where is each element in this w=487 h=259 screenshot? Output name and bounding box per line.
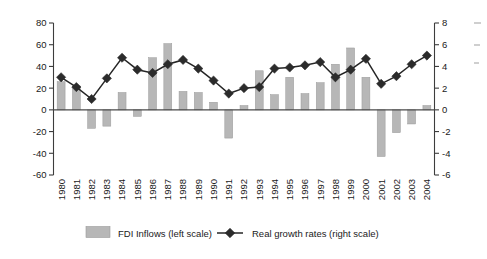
year-label: 1995 [284, 179, 295, 200]
year-label: 1992 [238, 179, 249, 200]
right-axis-tick-label: 8 [442, 17, 447, 28]
right-value-axis: 86420-2-4-6 [435, 17, 451, 180]
bar [408, 110, 416, 124]
bar [377, 110, 385, 157]
left-axis-tick-label: 40 [36, 61, 47, 72]
bar [194, 92, 202, 109]
year-label: 1998 [330, 179, 341, 200]
left-value-axis: 806040200-20-40-60 [33, 17, 54, 180]
left-axis-tick-label: 20 [36, 83, 47, 94]
bar [164, 44, 172, 110]
diamond-marker [57, 73, 66, 82]
year-label: 1994 [269, 179, 280, 200]
legend-label-growth: Real growth rates (right scale) [252, 228, 379, 239]
bar [362, 77, 370, 110]
year-label: 1991 [223, 179, 234, 200]
year-label: 2003 [406, 179, 417, 200]
right-axis-tick-label: -2 [442, 126, 450, 137]
bar [423, 106, 431, 110]
right-axis-tick-label: 4 [442, 61, 447, 72]
left-axis-tick-label: 80 [36, 17, 47, 28]
bar [240, 106, 248, 110]
year-label: 1987 [162, 179, 173, 200]
right-axis-tick-label: -4 [442, 148, 450, 159]
real-growth-rate-line [57, 51, 432, 104]
diamond-marker [377, 79, 386, 88]
scan-artifact-marks [474, 22, 481, 64]
year-label: 2004 [421, 179, 432, 200]
bar [331, 64, 339, 110]
fdi-inflow-bars [57, 44, 431, 157]
bar [179, 91, 187, 109]
year-label: 1996 [299, 179, 310, 200]
left-axis-tick-label: -20 [33, 126, 47, 137]
bar [88, 110, 96, 128]
left-axis-tick-label: 60 [36, 39, 47, 50]
right-axis-tick-label: -6 [442, 169, 450, 180]
diamond-marker [361, 54, 370, 63]
year-label: 1980 [56, 179, 67, 200]
left-axis-tick-label: -40 [33, 148, 47, 159]
legend-bar-swatch [86, 227, 110, 238]
bar [210, 102, 218, 110]
bar [392, 110, 400, 133]
diamond-marker [178, 55, 187, 64]
bar [271, 95, 279, 110]
bar [57, 82, 65, 110]
year-label: 2000 [360, 179, 371, 200]
right-axis-tick-label: 0 [442, 104, 447, 115]
year-axis-labels: 1980198119821983198419851986198719881989… [56, 179, 433, 200]
diamond-marker [285, 63, 294, 72]
year-label: 1983 [101, 179, 112, 200]
year-label: 1982 [86, 179, 97, 200]
bar [301, 94, 309, 110]
left-axis-tick-label: 0 [41, 104, 46, 115]
legend-label-fdi: FDI Inflows (left scale) [118, 228, 212, 239]
year-label: 1984 [116, 179, 127, 200]
year-label: 1988 [177, 179, 188, 200]
bar [149, 58, 157, 110]
left-axis-tick-label: -60 [33, 169, 47, 180]
bar [316, 83, 324, 110]
year-label: 1986 [147, 179, 158, 200]
diamond-marker [300, 61, 309, 70]
year-label: 1989 [193, 179, 204, 200]
year-label: 2002 [391, 179, 402, 200]
legend-diamond-marker [225, 228, 235, 238]
year-label: 2001 [376, 179, 387, 200]
bar [347, 48, 355, 110]
chart-figure: 806040200-20-40-60 86420-2-4-6 198019811… [0, 0, 487, 259]
year-label: 1997 [315, 179, 326, 200]
right-axis-tick-label: 6 [442, 39, 447, 50]
dual-axis-fdi-growth-chart: 806040200-20-40-60 86420-2-4-6 198019811… [0, 0, 487, 259]
diamond-marker [239, 84, 248, 93]
bar [103, 110, 111, 126]
right-axis-tick-label: 2 [442, 83, 447, 94]
bar [118, 92, 126, 109]
diamond-marker [422, 51, 431, 60]
year-label: 1993 [254, 179, 265, 200]
bar [133, 110, 141, 117]
year-label: 1999 [345, 179, 356, 200]
year-label: 1985 [132, 179, 143, 200]
chart-legend: FDI Inflows (left scale)Real growth rate… [86, 227, 379, 240]
bar [225, 110, 233, 138]
year-label: 1990 [208, 179, 219, 200]
year-label: 1981 [71, 179, 82, 200]
bar [286, 77, 294, 110]
